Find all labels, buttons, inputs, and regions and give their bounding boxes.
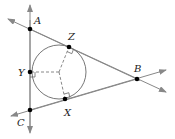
label-a: A — [33, 15, 41, 26]
right-angle-z — [67, 49, 73, 54]
incircle-diagram: A Z B Y X C — [0, 0, 175, 139]
point-x — [63, 97, 68, 102]
label-c: C — [17, 117, 25, 128]
label-b: B — [133, 63, 141, 74]
point-c — [28, 108, 33, 113]
point-b — [135, 77, 140, 82]
label-x: X — [63, 107, 72, 118]
label-y: Y — [18, 67, 26, 78]
label-z: Z — [67, 31, 76, 42]
radius-x — [59, 72, 65, 99]
point-z — [67, 45, 72, 50]
line-cb-right — [30, 70, 166, 110]
point-y — [28, 70, 33, 75]
point-a — [28, 27, 33, 32]
line-ab-right — [30, 29, 166, 92]
radius-z — [59, 47, 69, 72]
